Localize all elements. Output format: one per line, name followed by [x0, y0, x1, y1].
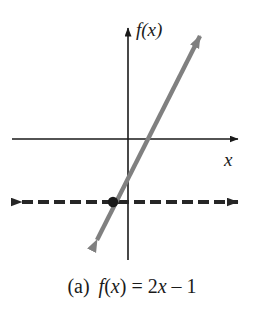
caption-minus-sign: – [172, 275, 182, 297]
caption-coefficient: 2 [148, 275, 158, 297]
caption-variable: x [158, 275, 167, 297]
caption-paren-open: ( [104, 275, 111, 297]
intersection-point-marker [108, 197, 118, 207]
x-axis-label: x [223, 149, 233, 170]
graph-svg: f(x) x [0, 0, 264, 271]
function-line [97, 36, 200, 240]
function-graph-figure: f(x) x [0, 0, 264, 271]
caption-equals: = [131, 275, 142, 297]
y-axis-label: f(x) [136, 19, 162, 41]
caption-argument: x [111, 275, 120, 297]
caption-constant: 1 [187, 275, 197, 297]
caption-paren-close: ) [120, 275, 127, 297]
caption-tag: (a) [67, 275, 89, 297]
figure-caption: (a)f(x) = 2x – 1 [0, 275, 264, 298]
